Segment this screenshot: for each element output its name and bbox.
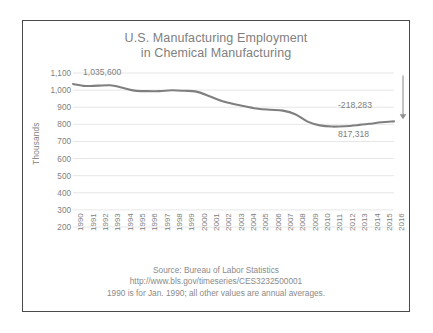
change-arrow-head	[400, 114, 407, 119]
x-axis-tick-label: 2011	[335, 214, 344, 231]
x-axis-tick-label: 2001	[212, 213, 221, 231]
x-axis-tick-label: 1991	[89, 213, 98, 231]
footer-source: Source: Bureau of Labor Statistics	[23, 265, 409, 277]
x-axis-tick-label: 1990	[76, 213, 85, 231]
x-axis-tick-label: 2013	[360, 213, 369, 231]
x-axis-tick-label: 2005	[261, 213, 270, 231]
x-axis-tick-label: 2002	[224, 213, 233, 231]
x-axis-tick-label: 2015	[385, 213, 394, 231]
x-axis-tick-label: 2008	[298, 213, 307, 231]
x-axis-tick-label: 2007	[286, 213, 295, 231]
change-value-label: -218,283	[338, 100, 372, 110]
x-axis-tick-label: 2012	[348, 213, 357, 231]
x-axis-tick-label: 2004	[249, 213, 258, 231]
chart-footer: Source: Bureau of Labor Statistics http:…	[23, 265, 409, 300]
footer-url: http://www.bls.gov/timeseries/CES3232500…	[23, 276, 409, 288]
chart-figure: U.S. Manufacturing Employment in Chemica…	[0, 0, 433, 333]
start-value-label: 1,035,600	[83, 67, 121, 77]
x-axis-tick-label: 1994	[126, 213, 135, 231]
x-axis-tick-label: 1998	[175, 213, 184, 231]
x-axis-tick-label: 2006	[274, 213, 283, 231]
x-axis-tick-label: 2010	[323, 213, 332, 231]
x-axis-tick-label: 1995	[138, 213, 147, 231]
x-axis-tick-label: 2014	[373, 213, 382, 231]
footer-note: 1990 is for Jan. 1990; all other values …	[23, 288, 409, 300]
x-axis-tick-label: 1999	[187, 213, 196, 231]
x-axis-tick-label: 1993	[113, 213, 122, 231]
x-axis-tick-label: 2003	[237, 213, 246, 231]
chart-frame: U.S. Manufacturing Employment in Chemica…	[22, 20, 410, 312]
x-axis-tick-label: 1992	[101, 213, 110, 231]
x-axis-tick-label: 1997	[163, 213, 172, 231]
x-axis-tick-label: 2009	[311, 213, 320, 231]
x-axis-tick-label: 1996	[150, 213, 159, 231]
x-axis-tick-label: 2000	[200, 213, 209, 231]
end-value-label: 817,318	[338, 129, 369, 139]
x-axis-tick-label: 2016	[397, 213, 406, 231]
